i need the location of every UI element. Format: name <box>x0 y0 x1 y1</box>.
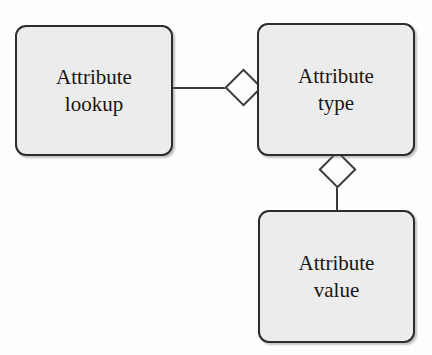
entity-label-line1: Attribute <box>299 250 375 277</box>
entity-label-line2: type <box>318 90 354 117</box>
entity-label-line1: Attribute <box>298 63 374 90</box>
entity-node-attribute-lookup[interactable]: Attribute lookup <box>15 25 173 156</box>
entity-node-attribute-type[interactable]: Attribute type <box>257 23 415 156</box>
entity-label-line2: value <box>314 277 359 304</box>
diagram-canvas: Attribute lookup Attribute type Attribut… <box>0 0 432 355</box>
entity-label-line1: Attribute <box>56 64 132 91</box>
aggregation-diamond-icon-type-value <box>318 150 356 188</box>
entity-label-line2: lookup <box>65 91 123 118</box>
entity-node-attribute-value[interactable]: Attribute value <box>258 210 415 343</box>
